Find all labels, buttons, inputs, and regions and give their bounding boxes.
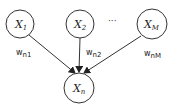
node-x2: X2	[66, 10, 94, 38]
weight-label-nM: wnM	[144, 49, 161, 60]
diagram-canvas: wn1 wn2 wnM X1 X2 ··· XM Xn	[0, 0, 174, 111]
ellipsis: ···	[108, 16, 117, 26]
edge-x1-xn	[29, 35, 75, 73]
node-x1: X1	[6, 10, 34, 38]
weight-label-n1: wn1	[16, 48, 31, 59]
weight-label-n2: wn2	[86, 48, 101, 59]
edge-x2-xn	[79, 38, 80, 72]
node-xM: XM	[137, 9, 167, 39]
node-xn: Xn	[64, 73, 94, 103]
